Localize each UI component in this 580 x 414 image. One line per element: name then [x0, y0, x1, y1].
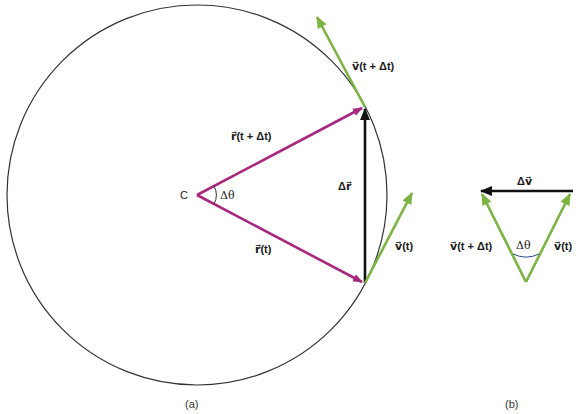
- panel-b: Δv⃗ v⃗(t + Δt) Δθ v⃗(t) (b): [450, 175, 573, 410]
- velocity-vector-v-t-b: [526, 194, 570, 282]
- position-vector-r-t: [197, 195, 362, 282]
- center-label: C: [180, 189, 188, 201]
- caption-b: (b): [505, 398, 518, 410]
- angle-arc-a: [214, 186, 216, 204]
- delta-v-label: Δv⃗: [517, 175, 533, 187]
- uniform-circular-motion-diagram: C Δθ r⃗(t + Δt) r⃗(t) Δr⃗ v⃗(t) v⃗(t + Δ…: [0, 0, 580, 414]
- v-t-dt-label-b: v⃗(t + Δt): [450, 240, 493, 252]
- angle-arc-b: [513, 254, 539, 257]
- v-t-dt-label-a: v⃗(t + Δt): [352, 60, 395, 72]
- velocity-vector-v-t-dt-b: [482, 194, 526, 282]
- angle-label-a: Δθ: [220, 189, 235, 202]
- delta-r-label: Δr⃗: [338, 180, 352, 192]
- r-t-label: r⃗(t): [255, 243, 272, 255]
- v-t-label-b: v⃗(t): [554, 240, 572, 252]
- velocity-vector-v-t: [365, 193, 412, 283]
- v-t-label-a: v⃗(t): [395, 240, 413, 252]
- panel-a: C Δθ r⃗(t + Δt) r⃗(t) Δr⃗ v⃗(t) v⃗(t + Δ…: [7, 5, 413, 410]
- caption-a: (a): [185, 398, 198, 410]
- r-t-dt-label: r⃗(t + Δt): [231, 130, 272, 142]
- angle-label-b: Δθ: [516, 239, 531, 252]
